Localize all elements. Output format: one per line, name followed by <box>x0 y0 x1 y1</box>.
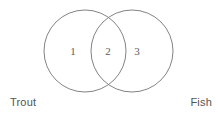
set-label-trout: Trout <box>10 97 36 108</box>
region-count-right-only: 3 <box>134 45 140 57</box>
region-count-intersection: 2 <box>105 45 111 57</box>
set-label-fish: Fish <box>190 97 212 108</box>
venn-circle-left <box>44 10 126 92</box>
venn-diagram-canvas: 1 2 3 Trout Fish <box>0 0 218 119</box>
region-count-left-only: 1 <box>70 45 76 57</box>
venn-circle-right <box>91 10 173 92</box>
